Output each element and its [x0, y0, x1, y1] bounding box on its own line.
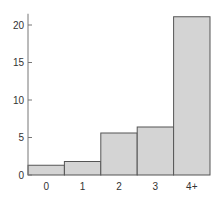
y-tick-label: 10: [13, 95, 25, 106]
bar-2: [101, 133, 137, 175]
x-tick-label: 4+: [186, 181, 198, 192]
x-tick-label: 2: [116, 181, 122, 192]
y-tick-label: 20: [13, 20, 25, 31]
x-tick-label: 0: [43, 181, 49, 192]
bars-group: [28, 17, 210, 175]
bar-1: [64, 162, 100, 176]
bar-3: [137, 127, 173, 175]
bar-0: [28, 165, 64, 175]
bar-chart: 05101520 01234+: [0, 0, 222, 201]
y-axis: 05101520: [13, 14, 32, 181]
x-tick-label: 3: [153, 181, 159, 192]
y-tick-label: 0: [18, 170, 24, 181]
y-tick-label: 5: [18, 132, 24, 143]
x-axis: 01234+: [43, 181, 197, 192]
bar-4+: [174, 17, 210, 175]
x-tick-label: 1: [80, 181, 86, 192]
y-tick-label: 15: [13, 57, 25, 68]
